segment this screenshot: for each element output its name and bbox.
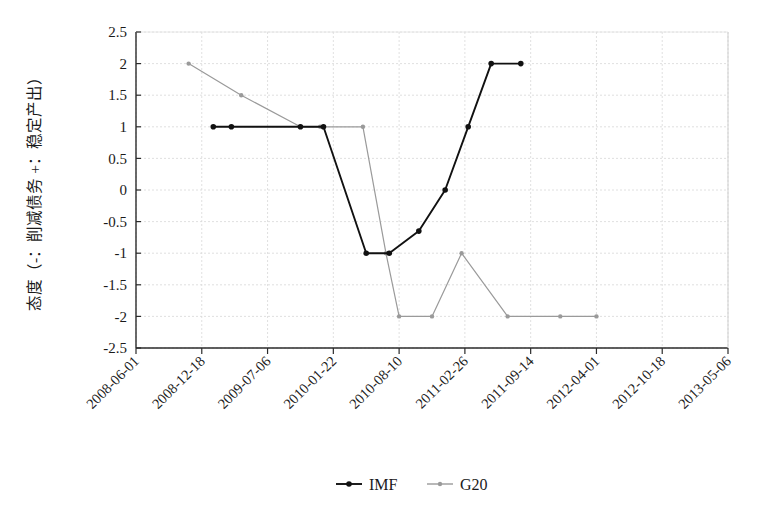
data-point-g20	[361, 125, 365, 129]
data-point-g20	[505, 314, 509, 318]
data-point-imf	[465, 124, 471, 130]
data-point-g20	[558, 314, 562, 318]
data-point-g20	[239, 93, 243, 97]
y-tick-label: -1.5	[103, 277, 127, 293]
legend-label-imf: IMF	[369, 476, 398, 493]
y-tick-label: 2.5	[108, 24, 127, 40]
y-axis-title: 态度（-：削减债务 +：稳定产出）	[26, 69, 43, 311]
x-tick-label: 2010-01-22	[280, 353, 339, 412]
x-tick-label: 2008-06-01	[83, 353, 142, 412]
x-tick-label: 2009-07-06	[215, 353, 274, 412]
x-tick-label: 2011-02-26	[412, 353, 471, 412]
x-tick-label: 2012-10-18	[609, 353, 668, 412]
x-tick-label: 2013-05-06	[675, 353, 734, 412]
legend-label-g20: G20	[460, 476, 488, 493]
y-tick-label: 0	[120, 182, 128, 198]
x-tick-label: 2008-12-18	[149, 353, 208, 412]
data-point-imf	[416, 228, 422, 234]
series-line-imf	[213, 64, 521, 254]
line-chart: 2.521.510.50-0.5-1-1.5-2-2.5 2008-06-012…	[0, 0, 762, 510]
data-point-imf	[229, 124, 235, 130]
x-axis-ticks: 2008-06-012008-12-182009-07-062010-01-22…	[83, 348, 734, 412]
data-point-g20	[397, 314, 401, 318]
data-point-imf	[298, 124, 304, 130]
data-point-g20	[186, 61, 190, 65]
chart-legend: IMFG20	[336, 476, 488, 493]
y-tick-label: -0.5	[103, 214, 127, 230]
data-point-imf	[321, 124, 327, 130]
data-point-imf	[210, 124, 216, 130]
data-point-imf	[442, 187, 448, 193]
legend-marker-imf	[346, 481, 352, 487]
data-point-g20	[430, 314, 434, 318]
data-point-g20	[594, 314, 598, 318]
y-tick-label: -2.5	[103, 340, 127, 356]
y-tick-label: -2	[115, 309, 128, 325]
y-tick-label: 1.5	[108, 87, 127, 103]
x-tick-label: 2010-08-10	[346, 353, 405, 412]
data-point-imf	[386, 250, 392, 256]
data-point-imf	[518, 61, 524, 67]
y-tick-label: 1	[120, 119, 128, 135]
legend-marker-g20	[438, 482, 442, 486]
x-tick-label: 2011-09-14	[478, 352, 537, 411]
data-point-imf	[488, 61, 494, 67]
y-tick-label: 0.5	[108, 151, 127, 167]
data-point-imf	[363, 250, 369, 256]
y-tick-label: -1	[115, 245, 128, 261]
y-axis-title-text: 态度（-：削减债务 +：稳定产出）	[26, 69, 43, 311]
chart-canvas: 2.521.510.50-0.5-1-1.5-2-2.5 2008-06-012…	[0, 0, 762, 510]
y-tick-label: 2	[120, 56, 128, 72]
x-tick-label: 2012-04-01	[543, 353, 602, 412]
data-point-g20	[459, 251, 463, 255]
gridlines	[136, 32, 728, 348]
